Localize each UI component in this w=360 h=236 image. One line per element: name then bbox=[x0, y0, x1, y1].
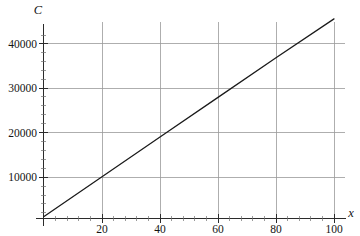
x-tick-label-80: 80 bbox=[270, 223, 282, 235]
x-axis-label: x bbox=[347, 206, 354, 220]
chart-container: 10000 20000 30000 40000 20 40 60 80 100 … bbox=[0, 0, 360, 236]
x-tick-label-60: 60 bbox=[212, 223, 224, 235]
x-tick-label-20: 20 bbox=[96, 223, 108, 235]
y-axis-label: C bbox=[34, 3, 43, 17]
y-tick-label-40000: 40000 bbox=[8, 38, 37, 50]
y-tick-label-30000: 30000 bbox=[8, 82, 37, 94]
line-chart: 10000 20000 30000 40000 20 40 60 80 100 … bbox=[0, 0, 360, 236]
y-tick-label-20000: 20000 bbox=[8, 127, 37, 139]
x-tick-label-40: 40 bbox=[154, 223, 166, 235]
y-tick-label-10000: 10000 bbox=[8, 171, 37, 183]
x-tick-label-100: 100 bbox=[325, 223, 343, 235]
chart-background bbox=[0, 0, 360, 236]
